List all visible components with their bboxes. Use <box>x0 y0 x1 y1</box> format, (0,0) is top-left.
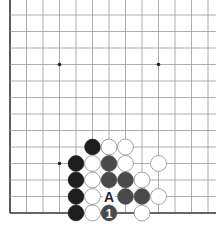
white-stone[interactable] <box>134 172 150 188</box>
white-stone[interactable] <box>118 139 134 155</box>
white-stone[interactable] <box>151 189 167 205</box>
white-stone[interactable] <box>101 139 117 155</box>
black-stone[interactable] <box>68 172 84 188</box>
white-stone[interactable] <box>118 156 134 172</box>
gray-stone[interactable] <box>101 172 117 188</box>
white-stone[interactable] <box>85 172 101 188</box>
black-stone[interactable] <box>68 205 84 221</box>
black-stone[interactable] <box>85 139 101 155</box>
gray-stone[interactable] <box>118 172 134 188</box>
gray-stone[interactable]: 1 <box>101 205 117 221</box>
black-stone[interactable] <box>68 156 84 172</box>
white-stone[interactable] <box>85 189 101 205</box>
go-board[interactable]: 1 A <box>0 0 224 226</box>
move-number: 1 <box>106 207 113 221</box>
black-stone[interactable] <box>68 189 84 205</box>
star-point <box>157 63 161 67</box>
white-stone[interactable] <box>134 205 150 221</box>
gray-stone[interactable] <box>118 189 134 205</box>
gray-stone[interactable] <box>101 156 117 172</box>
star-point <box>58 162 62 166</box>
white-stone[interactable] <box>151 156 167 172</box>
white-stone[interactable] <box>85 156 101 172</box>
white-stone[interactable] <box>85 205 101 221</box>
point-label-a: A <box>104 189 114 205</box>
markers-layer: A <box>103 189 115 205</box>
star-point <box>58 63 62 67</box>
gray-stone[interactable] <box>134 189 150 205</box>
